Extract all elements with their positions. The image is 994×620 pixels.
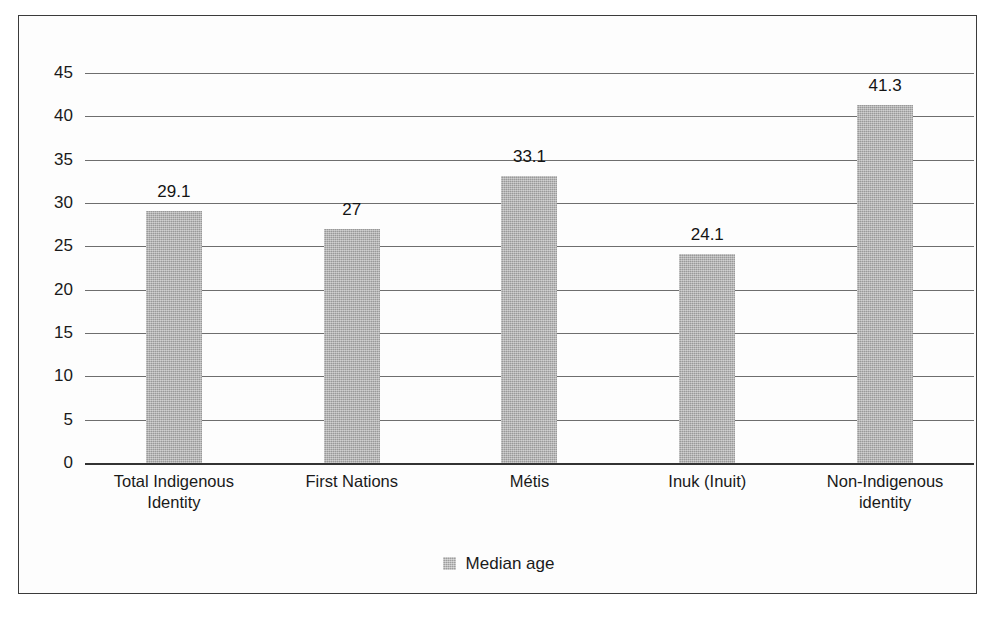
y-axis-tick-label-45: 45 xyxy=(33,64,73,81)
x-axis-label: Métis xyxy=(441,471,619,492)
legend-label-median-age: Median age xyxy=(466,555,555,572)
x-axis-label-line: Identity xyxy=(85,492,263,513)
bar[interactable] xyxy=(679,254,735,463)
y-axis-tick-label-25: 25 xyxy=(33,237,73,254)
x-axis-label-line: Non-Indigenous xyxy=(796,471,974,492)
x-axis-label-line: identity xyxy=(796,492,974,513)
bar-group: 27 xyxy=(263,73,441,463)
bar[interactable] xyxy=(501,176,557,463)
bar-value-label: 29.1 xyxy=(157,183,190,200)
y-axis-tick-label-30: 30 xyxy=(33,194,73,211)
y-axis-tick-label-5: 5 xyxy=(33,411,73,428)
bar-series-median-age: 29.12733.124.141.3 xyxy=(85,73,974,463)
bar-value-label: 27 xyxy=(342,201,361,218)
y-axis-tick-label-20: 20 xyxy=(33,281,73,298)
bar-value-label: 33.1 xyxy=(513,148,546,165)
y-axis-tick-label-35: 35 xyxy=(33,151,73,168)
y-axis-tick-label-40: 40 xyxy=(33,107,73,124)
bar-group: 24.1 xyxy=(618,73,796,463)
x-axis-baseline xyxy=(85,463,974,465)
bar[interactable] xyxy=(146,211,202,463)
bar[interactable] xyxy=(324,229,380,463)
y-axis-tick-label-10: 10 xyxy=(33,367,73,384)
bar-value-label: 24.1 xyxy=(691,226,724,243)
x-axis-label-line: Métis xyxy=(441,471,619,492)
bar-group: 41.3 xyxy=(796,73,974,463)
x-axis-category-labels: Total IndigenousIdentityFirst NationsMét… xyxy=(85,471,974,531)
bar[interactable] xyxy=(857,105,913,463)
x-axis-label: Non-Indigenousidentity xyxy=(796,471,974,513)
bar-group: 33.1 xyxy=(441,73,619,463)
y-axis-tick-label-15: 15 xyxy=(33,324,73,341)
x-axis-label: Inuk (Inuit) xyxy=(618,471,796,492)
bar-value-label: 41.3 xyxy=(869,77,902,94)
x-axis-label: Total IndigenousIdentity xyxy=(85,471,263,513)
y-axis: 051015202530354045 xyxy=(25,73,73,463)
x-axis-label: First Nations xyxy=(263,471,441,492)
y-axis-tick-label-0: 0 xyxy=(33,454,73,471)
legend-swatch-median-age xyxy=(443,557,456,570)
x-axis-label-line: First Nations xyxy=(263,471,441,492)
chart-frame: 051015202530354045 29.12733.124.141.3 To… xyxy=(18,15,977,594)
bar-group: 29.1 xyxy=(85,73,263,463)
chart-legend: Median age xyxy=(19,555,978,572)
x-axis-label-line: Total Indigenous xyxy=(85,471,263,492)
x-axis-label-line: Inuk (Inuit) xyxy=(618,471,796,492)
